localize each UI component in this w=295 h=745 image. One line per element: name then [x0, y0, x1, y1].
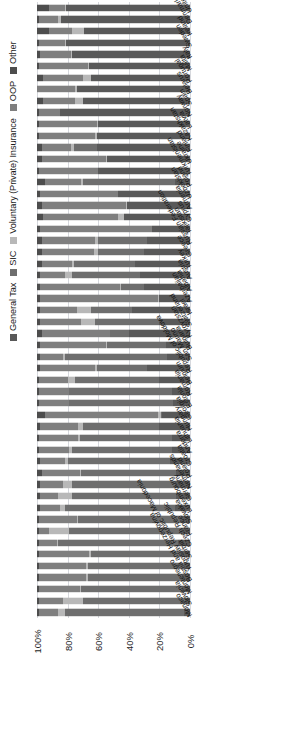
bar-segment: [42, 248, 94, 255]
legend-item-label: Voluntary (Private) Insurance: [8, 118, 18, 234]
bar-segment: [107, 341, 165, 348]
bar-row[interactable]: [37, 153, 190, 165]
bar-row[interactable]: [37, 293, 190, 305]
bar-segment: [65, 353, 168, 360]
bar-segment: [39, 120, 97, 127]
bar-row[interactable]: [37, 409, 190, 421]
bar-row[interactable]: [37, 374, 190, 386]
bar-segment: [81, 318, 95, 325]
bar-row[interactable]: [37, 60, 190, 72]
bar-row[interactable]: [37, 2, 190, 14]
bar-segment: [39, 562, 86, 569]
bar-segment: [40, 492, 58, 499]
bar-row[interactable]: [37, 95, 190, 107]
bar-segment: [39, 167, 99, 174]
bar-track: [37, 585, 190, 592]
bar-track: [37, 16, 190, 23]
bar-track: [37, 365, 190, 372]
bar-row[interactable]: [37, 269, 190, 281]
bar-segment: [49, 27, 72, 34]
bar-segment: [110, 330, 128, 337]
bar-track: [37, 97, 190, 104]
bar-row[interactable]: [37, 235, 190, 247]
bar-segment: [37, 27, 49, 34]
bar-segment: [65, 272, 73, 279]
bar-track: [37, 62, 190, 69]
bar-segment: [39, 62, 88, 69]
x-axis-tick-label: 40%: [123, 620, 134, 664]
bar-row[interactable]: [37, 432, 190, 444]
bar-row[interactable]: [37, 421, 190, 433]
bar-track: [37, 399, 190, 406]
bar-row[interactable]: [37, 223, 190, 235]
bar-track: [37, 423, 190, 430]
bar-row[interactable]: [37, 397, 190, 409]
bar-row[interactable]: [37, 176, 190, 188]
bar-segment: [37, 411, 45, 418]
bar-track: [37, 376, 190, 383]
bar-row[interactable]: [37, 281, 190, 293]
bar-segment: [39, 399, 70, 406]
bar-track: [37, 248, 190, 255]
bar-row[interactable]: [37, 304, 190, 316]
legend-item-label: OOP: [8, 81, 18, 101]
bar-row[interactable]: [37, 607, 190, 619]
bar-row[interactable]: [37, 351, 190, 363]
bar-row[interactable]: [37, 362, 190, 374]
bar-segment: [74, 260, 135, 267]
bar-segment: [49, 527, 69, 534]
legend-item[interactable]: SIC: [8, 251, 18, 276]
bar-row[interactable]: [37, 25, 190, 37]
bar-segment: [74, 144, 97, 151]
bar-row[interactable]: [37, 572, 190, 584]
bar-track: [37, 492, 190, 499]
bar-segment: [68, 376, 76, 383]
bar-segment: [58, 539, 177, 546]
bar-segment: [83, 74, 91, 81]
x-axis-tick-label: 80%: [62, 620, 73, 664]
bar-segment: [77, 86, 190, 93]
bar-track: [37, 86, 190, 93]
bar-row[interactable]: [37, 83, 190, 95]
bar-segment: [77, 306, 91, 313]
bar-row[interactable]: [37, 118, 190, 130]
bar-segment: [81, 585, 182, 592]
bar-segment: [65, 609, 184, 616]
bar-row[interactable]: [37, 49, 190, 61]
bar-row[interactable]: [37, 444, 190, 456]
bar-row[interactable]: [37, 72, 190, 84]
bar-row[interactable]: [37, 258, 190, 270]
bar-row[interactable]: [37, 37, 190, 49]
bar-row[interactable]: [37, 246, 190, 258]
bar-segment: [37, 4, 49, 11]
bar-segment: [39, 39, 65, 46]
bar-segment: [63, 597, 83, 604]
x-axis-tick-label: 60%: [93, 620, 104, 664]
bar-row[interactable]: [37, 467, 190, 479]
bar-track: [37, 74, 190, 81]
bar-segment: [68, 458, 171, 465]
bar-segment: [72, 272, 139, 279]
bar-segment: [121, 283, 144, 290]
bar-segment: [39, 597, 63, 604]
bar-row[interactable]: [37, 386, 190, 398]
bar-row[interactable]: [37, 165, 190, 177]
bar-segment: [98, 237, 147, 244]
legend-item[interactable]: Voluntary (Private) Insurance: [8, 118, 18, 244]
legend-item[interactable]: General Tax: [8, 283, 18, 341]
bar-track: [37, 51, 190, 58]
bar-row[interactable]: [37, 595, 190, 607]
bar-segment: [69, 399, 173, 406]
bar-track: [37, 27, 190, 34]
bar-segment: [72, 481, 175, 488]
bar-segment: [39, 388, 70, 395]
bar-row[interactable]: [37, 583, 190, 595]
legend-item[interactable]: Other: [8, 42, 18, 74]
bar-segment: [39, 527, 50, 534]
bar-row[interactable]: [37, 14, 190, 26]
bar-segment: [83, 179, 175, 186]
bar-row[interactable]: [37, 107, 190, 119]
legend-item-label: General Tax: [8, 283, 18, 331]
legend-item-label: Other: [8, 42, 18, 64]
legend-item[interactable]: OOP: [8, 81, 18, 111]
